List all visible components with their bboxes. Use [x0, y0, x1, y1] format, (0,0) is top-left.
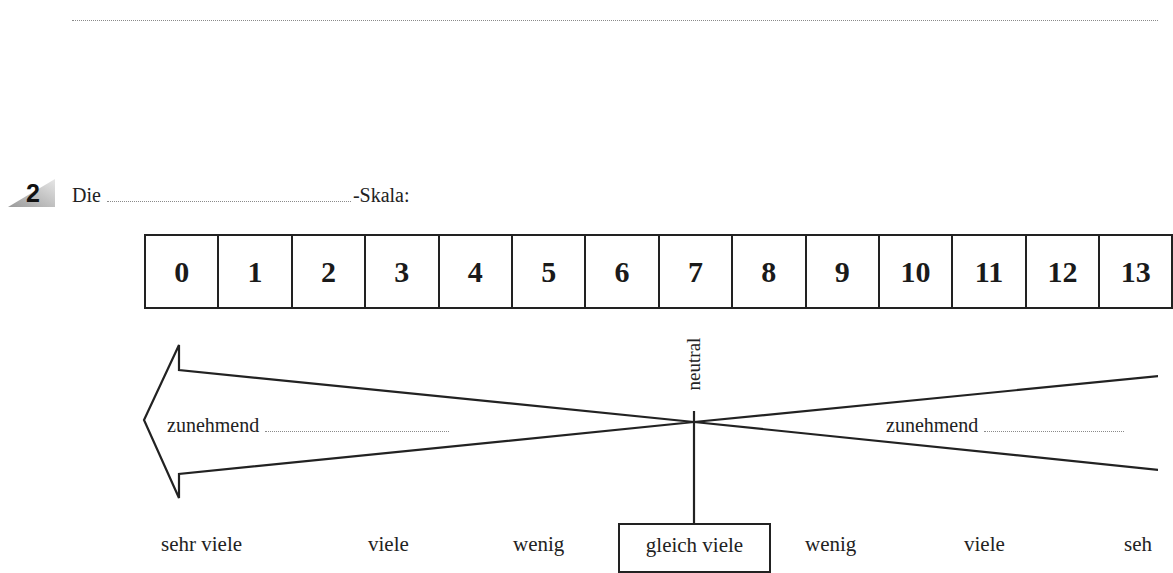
right-arrow-label: zunehmend	[886, 414, 1124, 437]
right-arrow-text: zunehmend	[886, 414, 978, 436]
center-category-box: gleich viele	[618, 523, 771, 573]
right-fill-in-line[interactable]	[984, 417, 1124, 432]
category-right-2: viele	[964, 532, 1005, 557]
category-right-3: seh	[1124, 532, 1152, 557]
category-left-3: wenig	[513, 532, 564, 557]
left-arrow-text: zunehmend	[167, 414, 259, 436]
neutral-label: neutral	[683, 338, 705, 391]
left-arrow-label: zunehmend	[167, 414, 449, 437]
category-right-1: wenig	[805, 532, 856, 557]
category-center: gleich viele	[620, 533, 769, 558]
category-left-1: sehr viele	[161, 532, 242, 557]
left-fill-in-line[interactable]	[265, 417, 449, 432]
category-left-2: viele	[368, 532, 409, 557]
